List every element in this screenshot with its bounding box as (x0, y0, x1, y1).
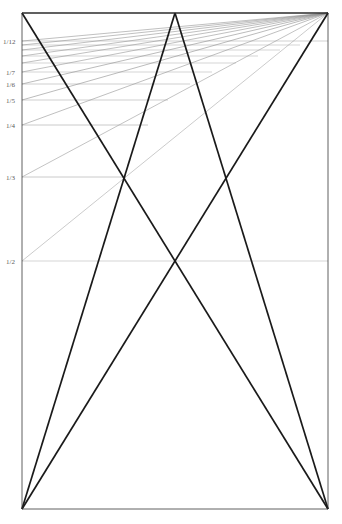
ray-1-6 (22, 13, 328, 84)
ray-1-10 (22, 13, 328, 50)
tick-label-1-6: 1/6 (6, 81, 15, 89)
tick-label-group: 1/12 1/7 1/6 1/5 1/4 1/3 1/2 (3, 38, 16, 266)
tick-label-1-4: 1/4 (6, 122, 15, 130)
tick-label-1-5: 1/5 (6, 97, 15, 105)
ray-1-12 (22, 13, 328, 41)
tick-label-1-2: 1/2 (6, 258, 15, 266)
tick-label-1-12: 1/12 (3, 38, 16, 46)
ray-1-3 (22, 13, 328, 177)
ray-1-11 (22, 13, 328, 45)
ray-1-9 (22, 13, 328, 56)
geometry-figure: 1/12 1/7 1/6 1/5 1/4 1/3 1/2 (0, 0, 342, 524)
ray-1-4 (22, 13, 328, 125)
diagram-canvas: 1/12 1/7 1/6 1/5 1/4 1/3 1/2 (0, 0, 342, 524)
gridline-group (22, 41, 328, 261)
ray-1-8 (22, 13, 328, 63)
tick-label-1-3: 1/3 (6, 174, 15, 182)
tick-label-1-7: 1/7 (6, 69, 15, 77)
